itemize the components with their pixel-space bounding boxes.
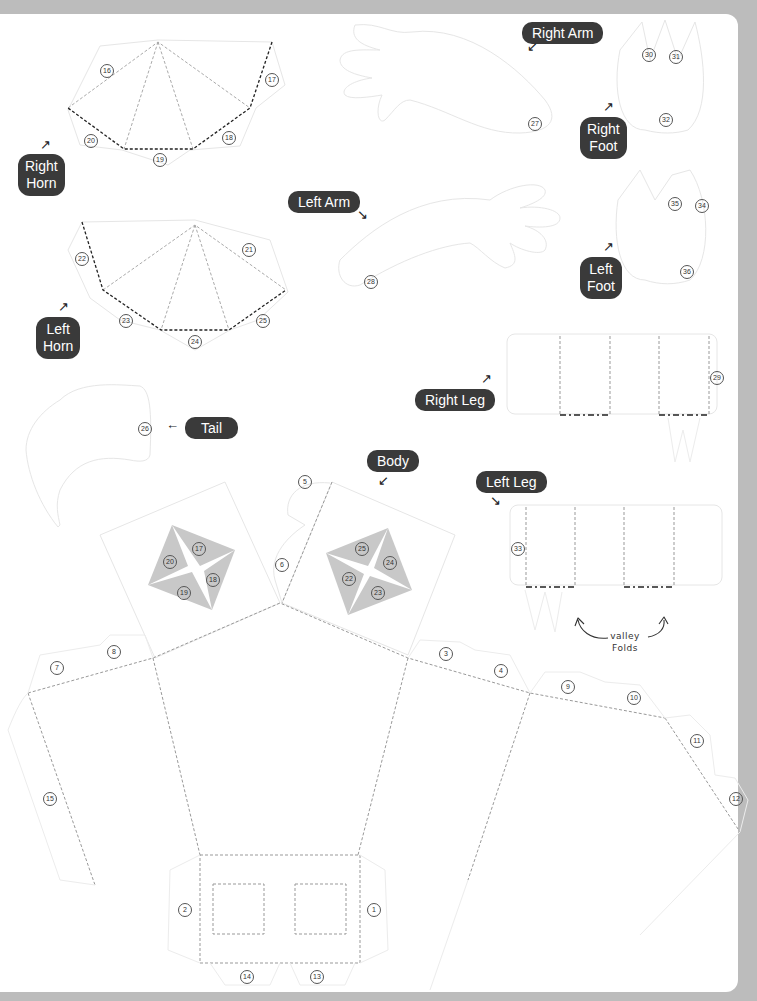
tab-number-13: 13 [310,970,324,984]
body-marker-24: 24 [383,556,397,570]
left-leg-piece [510,505,722,632]
tab-number-3: 3 [439,647,453,661]
body-marker-17: 17 [192,542,206,556]
tab-number-17: 17 [265,73,279,87]
body-arrow-icon: ↙ [378,474,389,487]
tab-number-21: 21 [242,243,256,257]
valley-folds-line2: Folds [600,642,650,654]
tab-number-18: 18 [222,131,236,145]
right-foot-label-line2: Foot [587,138,620,155]
tab-number-33: 33 [511,542,525,556]
right-horn-label-line1: Right [25,158,58,175]
tail-label: Tail [185,417,238,439]
right-foot-arrow-icon: ↗ [603,100,614,113]
tab-number-35: 35 [668,197,682,211]
tab-number-29: 29 [710,371,724,385]
body-marker-19: 19 [177,586,191,600]
body-marker-20: 20 [163,555,177,569]
right-leg-piece [507,334,717,462]
right-leg-label: Right Leg [415,389,495,411]
body-marker-22: 22 [342,572,356,586]
tab-number-11: 11 [690,734,704,748]
body-marker-25: 25 [355,542,369,556]
left-horn-piece [68,220,288,350]
tab-number-14: 14 [240,970,254,984]
tab-number-2: 2 [178,903,192,917]
left-horn-label-line1: Left [43,321,73,338]
body-label: Body [367,450,419,472]
tab-number-36: 36 [680,265,694,279]
right-arm-arrow-icon: ↙ [527,40,538,53]
valley-fold-arrow-right [648,617,668,637]
left-foot-arrow-icon: ↗ [603,240,614,253]
tab-number-25: 25 [256,314,270,328]
tab-number-16: 16 [100,64,114,78]
right-foot-label: Right Foot [580,117,627,159]
left-foot-label-line1: Left [587,261,615,278]
tab-number-31: 31 [669,50,683,64]
body-marker-23: 23 [371,586,385,600]
right-star-marker [326,528,412,615]
tail-arrow-icon: ← [166,418,179,431]
tab-number-8: 8 [107,645,121,659]
valley-folds-note: valley Folds [600,630,650,654]
tab-number-6: 6 [275,558,289,572]
right-horn-label-line2: Horn [25,175,58,192]
right-horn-arrow-icon: ↗ [40,138,51,151]
right-foot-label-line1: Right [587,121,620,138]
tab-number-30: 30 [642,48,656,62]
body-marker-18: 18 [206,573,220,587]
tab-number-1: 1 [367,903,381,917]
tab-number-12: 12 [729,792,743,806]
right-arm-piece [340,25,552,133]
left-arm-arrow-icon: ↘ [357,208,368,221]
tab-number-26: 26 [138,422,152,436]
tab-number-28: 28 [364,275,378,289]
tab-number-7: 7 [50,661,64,675]
tab-number-27: 27 [528,117,542,131]
left-foot-label-line2: Foot [587,278,615,295]
tail-piece [26,385,151,527]
tab-number-23: 23 [119,314,133,328]
tab-number-34: 34 [695,199,709,213]
right-leg-arrow-icon: ↗ [481,372,492,385]
left-horn-label: Left Horn [36,317,80,359]
left-star-marker [148,525,235,610]
left-foot-label: Left Foot [580,257,622,299]
tab-number-32: 32 [659,113,673,127]
left-arm-piece [339,185,560,286]
tab-number-22: 22 [75,252,89,266]
left-horn-arrow-icon: ↗ [58,300,69,313]
tab-number-19: 19 [153,153,167,167]
papercraft-template [0,0,757,1001]
valley-folds-line1: valley [600,630,650,642]
left-leg-arrow-icon: ↘ [490,494,501,507]
left-horn-label-line2: Horn [43,338,73,355]
tab-number-15: 15 [43,792,57,806]
tab-number-5: 5 [298,475,312,489]
tab-number-20: 20 [84,134,98,148]
left-leg-label: Left Leg [476,471,547,493]
tab-number-10: 10 [627,691,641,705]
tab-number-9: 9 [561,680,575,694]
left-arm-label: Left Arm [288,191,360,213]
tab-number-4: 4 [494,664,508,678]
right-horn-piece [68,40,285,165]
tab-number-24: 24 [188,335,202,349]
right-horn-label: Right Horn [18,154,65,196]
